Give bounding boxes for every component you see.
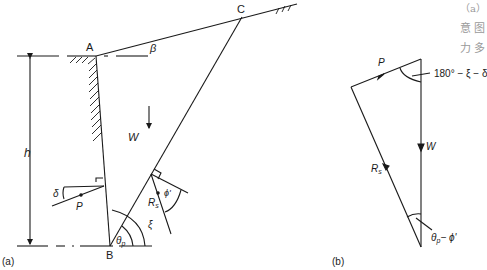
rs-label: Rs [148, 197, 159, 209]
side-text-line-3: 力 多 [460, 41, 486, 55]
right-angle-mark-p [96, 178, 103, 182]
theta-p-label: θp [116, 235, 125, 248]
retaining-wall-diagram: A B C β h W P δ Rs ϕ' ξ θp (a) P W Rs [0, 0, 487, 270]
caption-b: (b) [332, 256, 344, 267]
phi-label: ϕ' [164, 188, 171, 198]
top-angle-label: 180° − ξ − δ [434, 68, 487, 80]
force-p-vector [351, 59, 421, 87]
p-label: P [76, 201, 83, 212]
bottom-angle-arc [407, 214, 421, 217]
point-a-label: A [86, 41, 94, 53]
point-c-label: C [237, 3, 245, 15]
bottom-angle-leader [416, 218, 432, 230]
point-b-label: B [106, 249, 113, 261]
figure-b-labels: P W Rs 180° − ξ − δ θp− ϕ' (b) [332, 57, 487, 267]
b-rs-label: Rs [371, 163, 382, 175]
b-w-label: W [426, 141, 437, 152]
delta-arc [63, 187, 64, 199]
side-text-line-2: 意 图 [460, 21, 486, 35]
wall-normal-line [64, 186, 104, 187]
side-text-line-1: （a） [460, 3, 486, 14]
figure-a [17, 4, 297, 246]
w-label: W [128, 131, 140, 143]
b-p-label: P [378, 57, 385, 68]
side-text: （a） 意 图 力 多 [460, 3, 486, 55]
delta-label: δ [53, 188, 59, 199]
bottom-angle-label: θp− ϕ' [431, 232, 458, 245]
ground-surface-line [96, 4, 297, 56]
figure-b [351, 59, 432, 247]
beta-label: β [149, 42, 157, 54]
h-label: h [24, 146, 31, 160]
wall-back-face [96, 56, 110, 246]
caption-a: (a) [2, 256, 14, 267]
xi-label: ξ [148, 219, 153, 231]
